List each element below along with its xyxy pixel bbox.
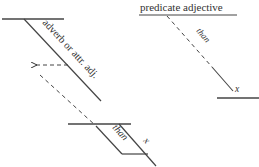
predicate-adjective-label: predicate adjective <box>140 1 223 13</box>
clause-subject-label: x <box>141 134 153 146</box>
dashed-connector <box>40 75 95 125</box>
modifier-label: adverb or attr. adj. <box>41 17 102 80</box>
diagram-canvas: adverb or attr. adj. than x predicate ad… <box>0 0 259 167</box>
object-label: x <box>234 84 240 94</box>
right-figure: predicate adjective than x <box>139 1 259 98</box>
connector-label: than <box>194 26 212 45</box>
left-figure: adverb or attr. adj. than x <box>2 17 156 166</box>
clause-connector-label: than <box>111 122 131 143</box>
solid-diagonal <box>212 67 233 91</box>
